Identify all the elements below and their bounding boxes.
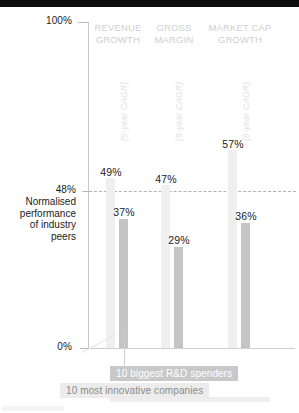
bar-light-gross-margin xyxy=(161,185,170,348)
x-axis-baseline xyxy=(80,348,295,349)
value-label-dark-revenue-growth: 37% xyxy=(104,206,144,218)
bar-light-revenue-growth xyxy=(106,178,115,348)
value-label-light-revenue-growth: 49% xyxy=(91,166,131,178)
bar-dark-market-cap-growth xyxy=(241,223,250,348)
legend-item-most-innovative-companies[interactable]: 10 most innovative companies xyxy=(60,383,209,398)
bottom-artifact-2 xyxy=(2,406,64,411)
value-label-light-gross-margin: 47% xyxy=(146,173,186,185)
legend-item-biggest-rd-spenders[interactable]: 10 biggest R&D spenders xyxy=(110,366,238,381)
bottom-artifact-1 xyxy=(110,397,270,402)
bar-dark-gross-margin xyxy=(174,247,183,348)
value-label-light-market-cap-growth: 57% xyxy=(213,138,253,150)
leader-arrow-dark-series xyxy=(120,329,128,338)
chart-page: 100% 48% 0% Normalised performance of in… xyxy=(0,0,299,413)
value-label-dark-gross-margin: 29% xyxy=(159,234,199,246)
bar-light-market-cap-growth xyxy=(228,150,237,348)
value-label-dark-market-cap-growth: 36% xyxy=(226,210,266,222)
